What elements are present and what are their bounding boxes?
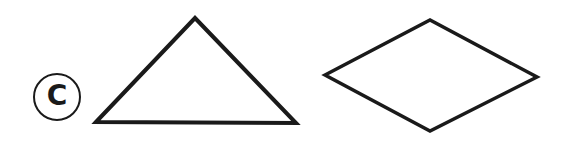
rhombus-shape xyxy=(325,20,537,131)
shapes-canvas xyxy=(0,0,574,145)
triangle-shape xyxy=(96,18,296,123)
